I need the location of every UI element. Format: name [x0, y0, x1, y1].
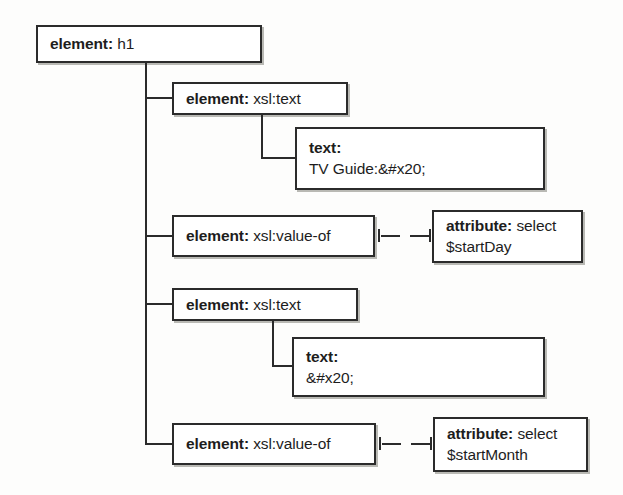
node-keyword: element: [186, 227, 249, 244]
node-element-xsl-value-of-1: element: xsl:value-of [172, 215, 375, 257]
dashed-link-attr2 [382, 443, 430, 445]
node-text-space: text: &#x20; [292, 337, 545, 397]
node-element-xsl-text-1: element: xsl:text [172, 82, 348, 115]
node-element-h1: element: h1 [36, 25, 262, 63]
node-keyword: element: [186, 435, 249, 452]
node-keyword: element: [186, 296, 249, 313]
node-attribute-select-startday-value: $startDay [434, 237, 581, 257]
node-element-xsl-text-2-label: element: xsl:text [174, 295, 356, 315]
node-value: select [512, 217, 556, 234]
dash-tick-right-1 [429, 229, 431, 242]
trunk-text1-child [261, 115, 263, 159]
node-value: select [513, 425, 557, 442]
node-element-h1-label: element: h1 [38, 34, 260, 54]
node-element-xsl-value-of-2: element: xsl:value-of [172, 423, 376, 465]
xslt-tree-diagram: element: h1 element: xsl:text text: TV G… [0, 0, 623, 495]
node-text-space-value: &#x20; [294, 368, 543, 388]
branch-stub-text1-content [261, 157, 297, 159]
node-element-xsl-text-1-label: element: xsl:text [174, 89, 346, 109]
node-keyword: element: [50, 35, 113, 52]
branch-stub-valueof1 [145, 235, 174, 237]
node-keyword: text: [309, 139, 341, 156]
node-element-xsl-value-of-1-label: element: xsl:value-of [174, 226, 373, 246]
node-attribute-select-startmonth-label: attribute: select [435, 424, 586, 444]
node-keyword: text: [306, 348, 338, 365]
branch-stub-text1 [145, 97, 174, 99]
node-value: xsl:text [249, 296, 301, 313]
node-value: xsl:text [249, 90, 301, 107]
dash-tick-left-2 [379, 437, 381, 450]
trunk-text2-child [272, 321, 274, 367]
node-keyword: attribute: [447, 425, 513, 442]
node-attribute-select-startday-label: attribute: select [434, 216, 581, 236]
node-text-tv-guide-label: text: [297, 138, 543, 158]
node-attribute-select-startday: attribute: select $startDay [432, 210, 583, 263]
dashed-link-attr1 [381, 235, 429, 237]
dash-tick-right-2 [430, 437, 432, 450]
branch-stub-text2 [145, 303, 174, 305]
node-element-xsl-text-2: element: xsl:text [172, 288, 358, 321]
node-text-space-label: text: [294, 347, 543, 367]
node-attribute-select-startmonth: attribute: select $startMonth [433, 417, 588, 472]
trunk-main [145, 63, 147, 445]
node-value: h1 [113, 35, 134, 52]
node-text-tv-guide-value: TV Guide:&#x20; [297, 159, 543, 179]
node-value: xsl:value-of [249, 227, 330, 244]
node-keyword: attribute: [446, 217, 512, 234]
node-keyword: element: [186, 90, 249, 107]
node-text-tv-guide: text: TV Guide:&#x20; [295, 127, 545, 190]
node-element-xsl-value-of-2-label: element: xsl:value-of [174, 434, 374, 454]
branch-stub-valueof2 [145, 443, 174, 445]
node-value: xsl:value-of [249, 435, 330, 452]
node-attribute-select-startmonth-value: $startMonth [435, 445, 586, 465]
dash-tick-left-1 [378, 229, 380, 242]
